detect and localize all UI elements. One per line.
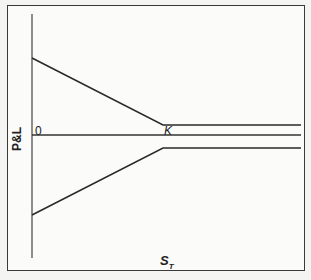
descending-payoff-line (32, 58, 301, 125)
y-axis-label: P&L (10, 124, 24, 154)
zero-label: 0 (35, 124, 42, 138)
x-axis-label: ST (160, 253, 174, 271)
payoff-diagram (0, 0, 311, 280)
x-axis-label-sub: T (169, 262, 174, 271)
x-axis-label-main: S (160, 253, 169, 268)
strike-label: K (164, 124, 172, 138)
ascending-payoff-line (32, 148, 301, 215)
